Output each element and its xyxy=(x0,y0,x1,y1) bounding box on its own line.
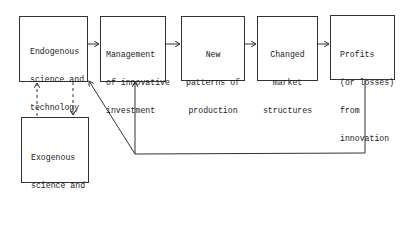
node-exogenous-science-label: Exogenous science and technology xyxy=(31,134,85,193)
node-profits-label: Profits (or losses) from innovation xyxy=(340,31,394,153)
node-management-label: Management of innovative investment xyxy=(106,31,170,125)
node-new-patterns-label: New patterns of production xyxy=(181,31,245,125)
node-changed-market-label: Changed market structures xyxy=(257,31,318,125)
